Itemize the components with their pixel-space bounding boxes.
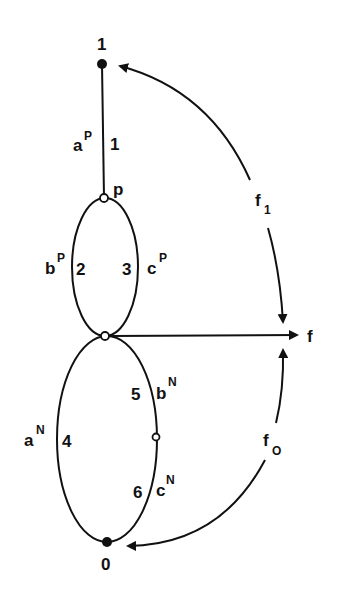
node-0-label: 0 (101, 555, 110, 574)
edge-6-number: 6 (133, 483, 142, 502)
flow-f-label: f (307, 327, 313, 346)
edge-4-number: 4 (62, 432, 72, 451)
edge-1-superscript: P (84, 129, 92, 143)
edge-1-name: a (73, 136, 83, 155)
edge-2-superscript: P (57, 251, 65, 265)
flow-f1-label: f (255, 191, 261, 210)
node-p-label: p (113, 180, 123, 199)
edge-5-superscript: N (168, 375, 177, 389)
node-1-label: 1 (97, 35, 106, 54)
flow-f-arrow (110, 335, 297, 336)
network-diagram: 1 p 0 a P 1 b P 2 3 c P a N 4 5 b N 6 c … (0, 0, 342, 604)
flow-f0-label: f (263, 431, 269, 450)
edge-1-line (102, 64, 104, 198)
lower-loop (57, 336, 157, 542)
edge-4-name: a (24, 431, 34, 450)
edge-4-superscript: N (36, 423, 45, 437)
node-p (100, 194, 108, 202)
flow-f1-subscript: 1 (264, 203, 271, 217)
edge-5-name: b (156, 384, 166, 403)
node-mid-lower (153, 434, 160, 441)
edge-6-name: c (156, 481, 165, 500)
node-1 (97, 59, 107, 69)
node-0 (102, 537, 112, 547)
edge-6-superscript: N (166, 473, 175, 487)
edge-2-name: b (45, 259, 55, 278)
flow-f0-subscript: O (272, 444, 281, 458)
flow-f1-lower-arrow (268, 228, 283, 322)
edge-3-superscript: P (159, 251, 167, 265)
edge-3-name: c (147, 259, 156, 278)
edge-1-number: 1 (110, 135, 119, 154)
flow-f0-lower-arrow (128, 460, 265, 546)
flow-f0-upper-arrow (276, 350, 283, 423)
flow-f1-upper-arrow (120, 66, 250, 180)
edge-3-number: 3 (122, 260, 131, 279)
edge-5-number: 5 (131, 385, 140, 404)
edge-2-number: 2 (76, 260, 85, 279)
node-mid (101, 332, 109, 340)
